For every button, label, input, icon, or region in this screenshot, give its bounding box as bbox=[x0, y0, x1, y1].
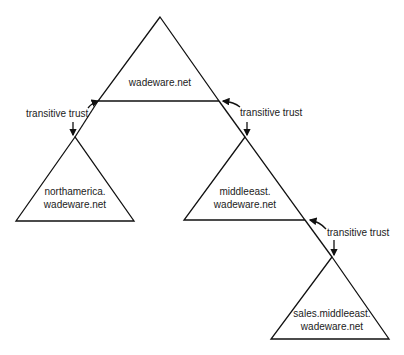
middleeast-name-line1: middleeast. bbox=[205, 185, 285, 198]
sales-name-line2: wadeware.net bbox=[285, 320, 379, 333]
diagram-lines bbox=[0, 0, 404, 355]
trust-diagram: wadeware.net northamerica. wadeware.net … bbox=[0, 0, 404, 355]
northamerica-name-line1: northamerica. bbox=[35, 185, 115, 198]
trust-arrow-right-a bbox=[223, 101, 240, 107]
sales-name-line1: sales.middleeast. bbox=[285, 307, 379, 320]
trust-label-sales: transitive trust bbox=[327, 227, 389, 238]
root-domain-name: wadeware.net bbox=[120, 76, 200, 89]
trust-label-right: transitive trust bbox=[240, 107, 302, 118]
root-domain-label: wadeware.net bbox=[120, 76, 200, 89]
sales-domain-label: sales.middleeast. wadeware.net bbox=[285, 307, 379, 333]
middleeast-name-line2: wadeware.net bbox=[205, 198, 285, 211]
northamerica-domain-label: northamerica. wadeware.net bbox=[35, 185, 115, 211]
middleeast-domain-label: middleeast. wadeware.net bbox=[205, 185, 285, 211]
trust-arrow-sales-a bbox=[310, 220, 326, 229]
northamerica-name-line2: wadeware.net bbox=[35, 198, 115, 211]
trust-label-left: transitive trust bbox=[26, 108, 88, 119]
